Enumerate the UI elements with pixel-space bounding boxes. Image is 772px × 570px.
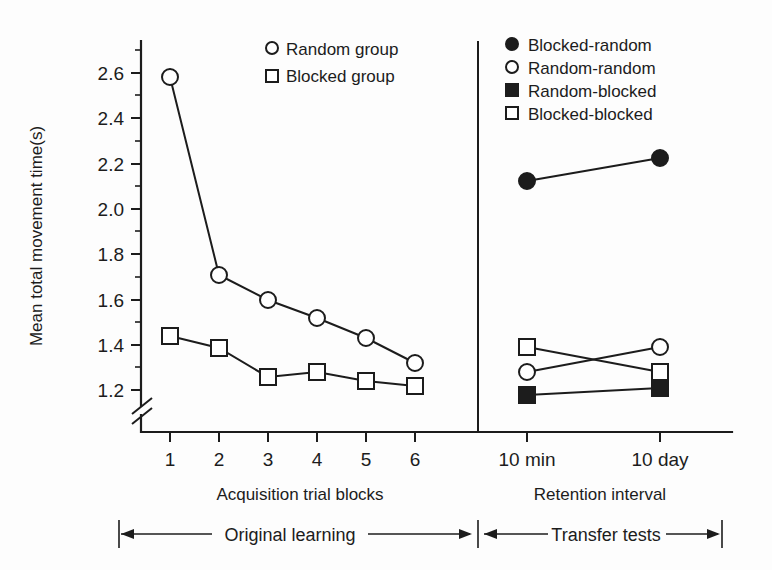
point-blocked-random-10day [652, 150, 668, 166]
legend-label-blocked-group: Blocked group [286, 67, 395, 86]
x-tick-labels-right-group: 10 min 10 day [498, 449, 689, 470]
series-line-blocked-random [527, 158, 660, 181]
point-blocked-group-5 [358, 373, 374, 389]
series-random-blocked [519, 380, 668, 403]
point-random-blocked-10min [519, 387, 535, 403]
series-line-random-group [170, 77, 415, 363]
y-tick-label-2.4: 2.4 [98, 108, 125, 129]
y-ticks-group [131, 50, 141, 390]
point-random-group-1 [162, 69, 178, 85]
point-random-random-10min [519, 364, 535, 380]
span-annotation-original-learning: Original learning [119, 520, 478, 548]
legend-label-blocked-blocked: Blocked-blocked [528, 105, 653, 124]
span-label-original-learning: Original learning [224, 525, 355, 545]
x-tick-labels-left-group: 1 2 3 4 5 6 [165, 449, 421, 470]
x-tick-label-left-4: 4 [312, 449, 323, 470]
legend-label-random-group: Random group [286, 40, 398, 59]
x-tick-label-left-1: 1 [165, 449, 176, 470]
y-tick-label-1.2: 1.2 [98, 380, 124, 401]
x-tick-label-left-3: 3 [263, 449, 274, 470]
legend-marker-random-blocked-icon [506, 84, 518, 96]
point-random-blocked-10day [652, 380, 668, 396]
point-random-group-3 [260, 292, 276, 308]
legend-label-blocked-random: Blocked-random [528, 36, 652, 55]
series-blocked-blocked [519, 339, 668, 380]
point-random-group-5 [358, 330, 374, 346]
span-label-transfer-tests: Transfer tests [551, 525, 660, 545]
y-tick-label-1.4: 1.4 [98, 335, 125, 356]
point-blocked-group-6 [407, 378, 423, 394]
series-blocked-group [162, 328, 423, 394]
x-axis-line [141, 415, 732, 432]
x-axis-title-right: Retention interval [534, 485, 666, 504]
y-tick-label-2.6: 2.6 [98, 63, 124, 84]
series-random-group [162, 69, 423, 371]
legend-marker-random-group-icon [266, 42, 278, 54]
legend-marker-blocked-blocked-icon [506, 107, 518, 119]
y-axis-title: Mean total movement time(s) [27, 126, 46, 346]
span-annotation-transfer-tests: Transfer tests [484, 520, 722, 548]
figure-container: 1.2 1.4 1.6 1.8 2.0 2.2 2.4 2.6 Mean tot… [0, 0, 772, 570]
x-tick-label-right-10day: 10 day [631, 449, 689, 470]
point-random-group-6 [407, 355, 423, 371]
y-tick-label-1.8: 1.8 [98, 244, 124, 265]
legend-marker-random-random-icon [506, 61, 518, 73]
series-line-random-blocked [527, 388, 660, 395]
point-blocked-group-4 [309, 364, 325, 380]
legend-right: Blocked-random Random-random Random-bloc… [506, 36, 657, 124]
y-tick-label-1.6: 1.6 [98, 290, 124, 311]
legend-marker-blocked-group-icon [266, 70, 278, 82]
legend-left: Random group Blocked group [266, 40, 398, 86]
y-tick-labels-group: 1.2 1.4 1.6 1.8 2.0 2.2 2.4 2.6 [98, 63, 125, 401]
point-blocked-random-10min [519, 173, 535, 189]
span-left-arrowhead [121, 529, 134, 539]
chart-svg: 1.2 1.4 1.6 1.8 2.0 2.2 2.4 2.6 Mean tot… [0, 0, 772, 570]
point-random-group-2 [211, 267, 227, 283]
point-blocked-blocked-10day [652, 364, 668, 380]
point-random-group-4 [309, 310, 325, 326]
x-ticks-right-group [527, 432, 660, 442]
point-random-random-10day [652, 339, 668, 355]
x-tick-label-left-6: 6 [410, 449, 421, 470]
legend-label-random-random: Random-random [528, 59, 656, 78]
x-tick-label-left-2: 2 [214, 449, 225, 470]
x-axis-title-left: Acquisition trial blocks [216, 485, 383, 504]
point-blocked-group-3 [260, 369, 276, 385]
x-tick-label-left-5: 5 [361, 449, 372, 470]
series-blocked-random [519, 150, 668, 189]
point-blocked-blocked-10min [519, 339, 535, 355]
point-blocked-group-2 [211, 340, 227, 356]
span-right-arrowhead-left [484, 529, 497, 539]
x-ticks-left-group [170, 432, 415, 442]
legend-label-random-blocked: Random-blocked [528, 82, 657, 101]
point-blocked-group-1 [162, 328, 178, 344]
y-tick-label-2.2: 2.2 [98, 154, 124, 175]
legend-marker-blocked-random-icon [506, 38, 518, 50]
x-tick-label-right-10min: 10 min [498, 449, 555, 470]
span-left-arrowhead-right [459, 529, 472, 539]
span-right-arrowhead-right [707, 529, 720, 539]
y-tick-label-2.0: 2.0 [98, 199, 124, 220]
